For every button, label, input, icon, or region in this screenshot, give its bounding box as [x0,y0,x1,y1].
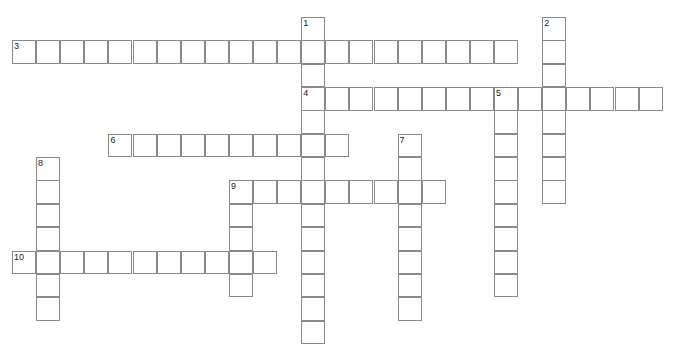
crossword-cell[interactable] [301,64,325,88]
crossword-cell[interactable] [253,134,277,158]
crossword-cell[interactable] [205,134,229,158]
crossword-cell[interactable] [84,251,108,275]
crossword-cell[interactable] [398,251,422,275]
crossword-cell[interactable] [422,180,446,204]
crossword-cell[interactable] [277,180,301,204]
crossword-cell[interactable] [108,40,132,64]
crossword-cell[interactable] [639,87,663,111]
crossword-cell[interactable] [494,110,518,134]
crossword-cell[interactable] [494,180,518,204]
crossword-cell[interactable] [205,251,229,275]
crossword-cell[interactable] [133,251,157,275]
crossword-cell[interactable] [277,40,301,64]
crossword-cell[interactable] [590,87,614,111]
crossword-cell[interactable] [60,251,84,275]
crossword-cell[interactable] [398,87,422,111]
crossword-cell[interactable] [229,204,253,228]
crossword-cell[interactable] [566,87,590,111]
crossword-cell[interactable] [349,87,373,111]
crossword-cell[interactable] [615,87,639,111]
crossword-cell[interactable] [84,40,108,64]
crossword-cell[interactable] [36,204,60,228]
crossword-cell[interactable] [229,40,253,64]
crossword-cell[interactable] [542,64,566,88]
crossword-cell[interactable] [398,297,422,321]
crossword-cell[interactable] [494,274,518,298]
crossword-cell[interactable] [157,134,181,158]
crossword-cell[interactable] [108,251,132,275]
crossword-cell[interactable] [36,274,60,298]
crossword-cell[interactable] [542,157,566,181]
crossword-cell[interactable] [60,40,84,64]
crossword-cell[interactable] [494,40,518,64]
crossword-cell[interactable] [36,297,60,321]
crossword-cell[interactable] [277,134,301,158]
crossword-cell[interactable] [398,180,422,204]
crossword-cell[interactable] [325,180,349,204]
crossword-cell[interactable] [301,274,325,298]
crossword-cell[interactable] [301,321,325,345]
crossword-cell[interactable] [542,180,566,204]
crossword-cell[interactable] [133,40,157,64]
crossword-cell[interactable] [301,251,325,275]
crossword-cell[interactable] [494,134,518,158]
crossword-cell[interactable]: 9 [229,180,253,204]
crossword-cell[interactable]: 7 [398,134,422,158]
crossword-cell[interactable] [36,40,60,64]
crossword-cell[interactable] [422,40,446,64]
crossword-cell[interactable] [398,40,422,64]
crossword-cell[interactable] [253,180,277,204]
crossword-cell[interactable] [181,40,205,64]
crossword-cell[interactable] [398,274,422,298]
crossword-cell[interactable] [181,134,205,158]
crossword-cell[interactable] [301,204,325,228]
crossword-cell[interactable] [446,40,470,64]
crossword-cell[interactable] [374,87,398,111]
crossword-cell[interactable] [542,87,566,111]
crossword-cell[interactable] [542,110,566,134]
crossword-cell[interactable] [542,40,566,64]
crossword-cell[interactable] [229,251,253,275]
crossword-cell[interactable] [36,251,60,275]
crossword-cell[interactable] [253,40,277,64]
crossword-cell[interactable] [301,40,325,64]
crossword-cell[interactable] [518,87,542,111]
crossword-cell[interactable] [349,180,373,204]
crossword-cell[interactable] [229,227,253,251]
crossword-cell[interactable]: 8 [36,157,60,181]
crossword-cell[interactable]: 4 [301,87,325,111]
crossword-cell[interactable] [446,87,470,111]
crossword-cell[interactable] [398,227,422,251]
crossword-cell[interactable] [301,157,325,181]
crossword-cell[interactable] [157,251,181,275]
crossword-cell[interactable] [374,40,398,64]
crossword-cell[interactable]: 5 [494,87,518,111]
crossword-cell[interactable] [301,297,325,321]
crossword-cell[interactable] [301,227,325,251]
crossword-cell[interactable] [36,227,60,251]
crossword-cell[interactable]: 1 [301,17,325,41]
crossword-cell[interactable] [470,87,494,111]
crossword-cell[interactable]: 2 [542,17,566,41]
crossword-cell[interactable] [542,134,566,158]
crossword-cell[interactable] [181,251,205,275]
crossword-cell[interactable] [494,157,518,181]
crossword-cell[interactable]: 6 [108,134,132,158]
crossword-cell[interactable]: 10 [12,251,36,275]
crossword-cell[interactable] [494,251,518,275]
crossword-cell[interactable] [301,110,325,134]
crossword-cell[interactable] [325,134,349,158]
crossword-cell[interactable] [157,40,181,64]
crossword-cell[interactable] [374,180,398,204]
crossword-cell[interactable] [470,40,494,64]
crossword-cell[interactable] [349,40,373,64]
crossword-cell[interactable] [494,227,518,251]
crossword-cell[interactable] [205,40,229,64]
crossword-cell[interactable] [253,251,277,275]
crossword-cell[interactable]: 3 [12,40,36,64]
crossword-cell[interactable] [422,87,446,111]
crossword-cell[interactable] [325,40,349,64]
crossword-cell[interactable] [229,134,253,158]
crossword-cell[interactable] [229,274,253,298]
crossword-cell[interactable] [398,204,422,228]
